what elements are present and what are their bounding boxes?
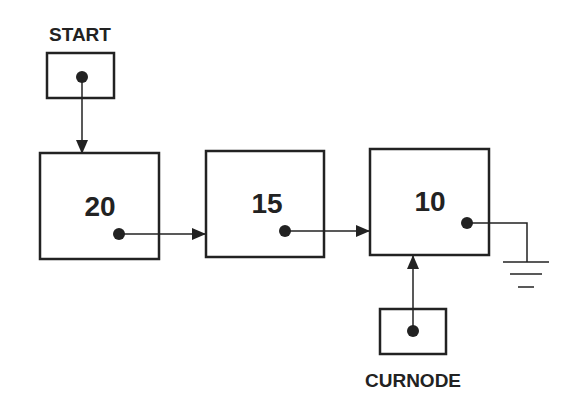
curnode-label: CURNODE [365, 370, 461, 391]
linked-list-diagram: START 20 15 10 CURNODE [0, 0, 569, 399]
list-node-1: 20 [40, 153, 205, 259]
list-node-3: 10 [370, 149, 527, 262]
node-value: 20 [84, 191, 115, 222]
curnode-pointer: CURNODE [365, 256, 461, 391]
ground-null-icon [503, 262, 549, 287]
start-pointer: START [47, 24, 114, 153]
node-value: 15 [251, 188, 282, 219]
node-value: 10 [414, 186, 445, 217]
list-node-2: 15 [206, 151, 369, 257]
start-label: START [49, 24, 111, 45]
